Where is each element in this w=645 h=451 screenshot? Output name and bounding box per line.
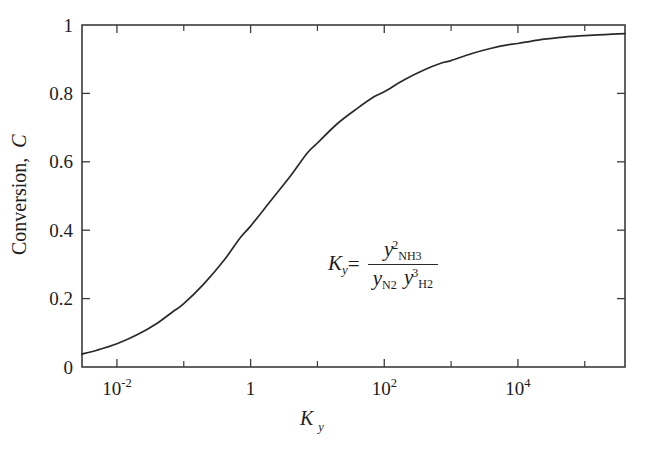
denominator-2-subscript: H bbox=[418, 277, 427, 291]
y-axis-title-symbol: C bbox=[8, 134, 30, 148]
formula-lhs-base: K bbox=[328, 251, 342, 275]
numerator-subscript: NH bbox=[398, 249, 415, 263]
svg-text:K y: K y bbox=[299, 407, 324, 434]
formula-numerator: y2NH3 bbox=[379, 238, 427, 263]
conversion-vs-ky-chart: 10-21102104 00.20.40.60.81 Conversion, C… bbox=[0, 0, 645, 451]
x-tick-label: 104 bbox=[505, 376, 531, 399]
data-series-group bbox=[82, 34, 625, 354]
y-tick-label: 0.4 bbox=[49, 220, 73, 241]
conversion-curve bbox=[82, 34, 625, 354]
y-tick-label: 0.6 bbox=[49, 151, 73, 172]
x-axis-title: K y bbox=[299, 407, 324, 434]
formula-equals: = bbox=[348, 252, 360, 277]
y-tick-label: 0.8 bbox=[49, 83, 73, 104]
denominator-2-subscript-number: 2 bbox=[427, 277, 433, 291]
y-tick-label: 1 bbox=[64, 15, 74, 36]
x-tick-label: 1 bbox=[246, 378, 256, 399]
denominator-1-subscript-number: 2 bbox=[391, 277, 397, 291]
x-tick-label: 10-2 bbox=[102, 376, 131, 399]
y-tick-label: 0.2 bbox=[49, 288, 73, 309]
plot-frame bbox=[82, 25, 625, 367]
formula-fraction: y2NH3 yN2 y3H2 bbox=[368, 238, 438, 291]
figure-container: 10-21102104 00.20.40.60.81 Conversion, C… bbox=[0, 0, 645, 451]
x-tick-label: 102 bbox=[372, 376, 397, 399]
x-axis-tick-labels: 10-21102104 bbox=[102, 376, 531, 399]
denominator-term-n2: yN2 bbox=[373, 268, 397, 291]
denominator-1-base: y bbox=[373, 266, 382, 290]
denominator-1-subscript: N bbox=[382, 277, 391, 291]
formula-denominator: yN2 y3H2 bbox=[368, 266, 438, 291]
svg-text:Conversion, C: Conversion, C bbox=[8, 134, 30, 255]
y-axis-tick-labels: 00.20.40.60.81 bbox=[49, 15, 73, 378]
y-axis-title: Conversion, C bbox=[8, 134, 30, 255]
y-tick-label: 0 bbox=[64, 357, 74, 378]
y-axis-title-text: Conversion, bbox=[8, 158, 30, 255]
ky-formula-annotation: Ky= y2NH3 yN2 y3H2 bbox=[328, 238, 438, 291]
x-axis-title-sub: y bbox=[316, 420, 324, 434]
numerator-subscript-number: 3 bbox=[416, 249, 422, 263]
x-axis-ticks bbox=[117, 25, 585, 367]
formula-lhs: Ky bbox=[328, 251, 348, 278]
x-axis-title-base: K bbox=[299, 407, 315, 429]
numerator-term-nh3: y2NH3 bbox=[384, 239, 422, 262]
denominator-term-h2: y3H2 bbox=[404, 267, 433, 290]
